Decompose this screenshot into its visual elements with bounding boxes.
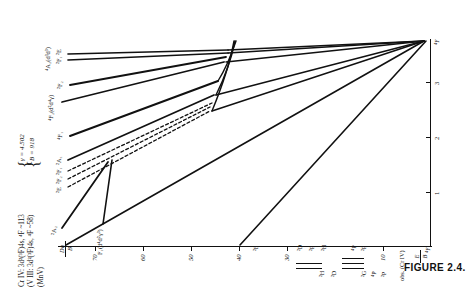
free-ion-2P: ²P xyxy=(380,272,387,277)
marker-line-5 xyxy=(342,258,364,259)
curve-2A2 xyxy=(62,162,108,228)
figure-caption: FIGURE 2.4. xyxy=(404,262,466,273)
label-2E-vertical: ²E xyxy=(55,49,62,55)
label-F1: F₁(d⁴d²γ³) xyxy=(96,229,103,255)
curve-4F1 xyxy=(70,81,218,136)
axis-term-4P: ⁴P xyxy=(350,245,357,251)
label-4F2: ⁴F₂(d²d⁴γ) xyxy=(47,95,54,121)
figure-body: Cr IV: 3d²(³F)4s, ⁴F ~113 (V III: 3d²(³F… xyxy=(0,0,471,307)
label-2F2: ²F₂ xyxy=(55,176,62,184)
origin-term-4F: ⁴F xyxy=(433,39,440,45)
rotated-figure-stage: Cr IV: 3d²(³F)4s, ⁴F ~113 (V III: 3d²(³F… xyxy=(0,0,471,307)
marker-line-4 xyxy=(342,263,364,264)
curve-flat-1 xyxy=(212,41,234,111)
label-4F1: ⁴F₁ xyxy=(56,132,63,140)
label-2A1: ²A₁ xyxy=(55,156,62,165)
axis-term-2P: ²P xyxy=(308,246,315,251)
axis-term-4F-ground: ⁴F xyxy=(424,247,431,253)
axis-term-2H: ²H xyxy=(320,245,327,251)
free-ion-2G: ²G xyxy=(360,271,367,277)
curve-2A1 xyxy=(68,95,214,160)
label-2F1: ²F₁ xyxy=(55,167,62,175)
free-ion-2D: ²D xyxy=(330,271,337,277)
free-ion-2H: ²H xyxy=(318,271,325,277)
label-2F2-upper: ²F₂ xyxy=(56,81,63,89)
label-2F1-vertical: ²F₁ xyxy=(55,56,62,64)
curve-2A2-descend xyxy=(66,41,424,245)
axis-term-2D: ²D xyxy=(296,245,303,251)
curve-2F2-dashed xyxy=(68,107,210,179)
label-2A2: ²A₂ xyxy=(50,226,57,235)
label-4A2-right: ⁴A₂(d³d³) xyxy=(44,47,51,71)
figure-page: Cr IV: 3d²(³F)4s, ⁴F ~113 (V III: 3d²(³F… xyxy=(0,0,471,307)
label-2E: ²E xyxy=(55,187,62,193)
marker-line-1 xyxy=(296,268,322,269)
curve-2F1-dashed xyxy=(68,103,212,171)
marker-line-3 xyxy=(342,268,364,269)
curve-F1 xyxy=(103,160,112,224)
axis-term-2F: ²F xyxy=(252,246,259,251)
marker-line-2 xyxy=(296,263,322,264)
axis-term-2P-lower: ²P xyxy=(360,246,367,251)
free-ion-4P: ⁴P xyxy=(370,271,377,277)
